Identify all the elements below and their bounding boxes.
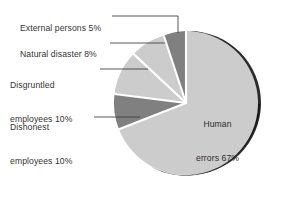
leader-line-external-persons — [112, 16, 178, 33]
pie-label-human-errors-line2: errors 67% — [196, 153, 239, 164]
pie-label-human-errors-line1: Human — [196, 119, 239, 130]
pie-label-dishonest-employees-line1: Dishonest — [10, 122, 72, 133]
pie-label-dishonest-employees-line2: employees 10% — [10, 156, 72, 167]
pie-label-dishonest-employees: Dishonest employees 10% — [10, 100, 72, 190]
pie-label-disgruntled-employees-line1: Disgruntled — [10, 80, 72, 91]
pie-chart-figure: External persons 5% Natural disaster 8% … — [0, 0, 282, 198]
pie-label-external-persons-text: External persons 5% — [20, 23, 101, 33]
pie-label-human-errors: Human errors 67% — [196, 96, 239, 187]
